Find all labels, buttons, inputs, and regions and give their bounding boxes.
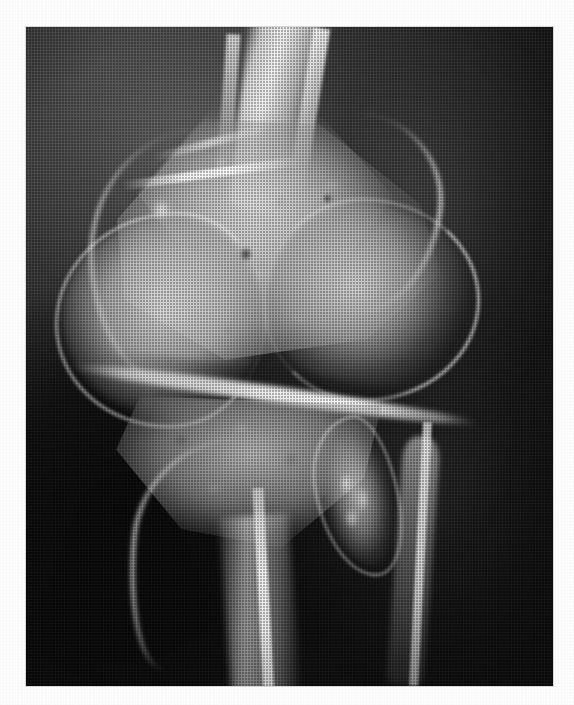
focal-density-defect: [237, 244, 255, 264]
radiograph-plate: [26, 27, 553, 686]
focal-density-defect-secondary: [321, 192, 334, 205]
focal-lucency: [147, 195, 176, 224]
figure-page: [0, 0, 574, 705]
figure-caption: [26, 690, 553, 702]
